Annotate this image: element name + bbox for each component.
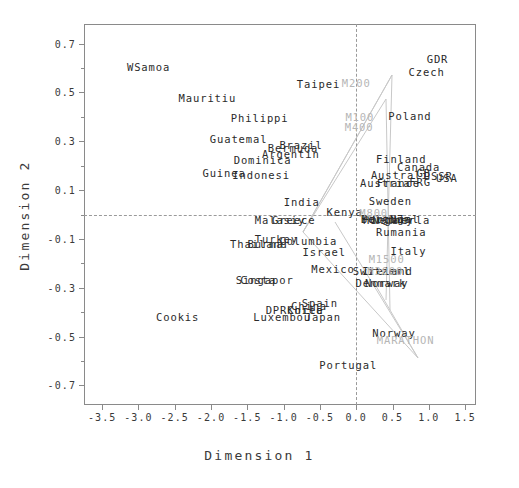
y-minor-tick-mark <box>81 312 84 313</box>
point-label: USA <box>436 172 458 184</box>
point-label: Luxembou <box>253 311 311 323</box>
x-tick-mark <box>175 405 176 410</box>
x-tick-mark <box>465 405 466 410</box>
x-tick-mark <box>393 405 394 410</box>
point-label: Japan <box>305 311 341 323</box>
x-tick-label: 0.5 <box>382 412 403 423</box>
y-tick-mark <box>79 92 84 93</box>
x-tick-label: 0.0 <box>346 412 367 423</box>
point-label: FRG <box>409 176 431 188</box>
y-tick-mark <box>79 239 84 240</box>
x-tick-label: 1.5 <box>454 412 475 423</box>
y-tick-mark <box>79 385 84 386</box>
y-tick-label: -0.3 <box>32 282 76 293</box>
x-tick-label: -2.0 <box>197 412 225 423</box>
point-label: Dominica <box>234 154 292 166</box>
point-label: Israel <box>303 246 346 258</box>
y-tick-label: -0.5 <box>32 331 76 342</box>
y-tick-label: -0.1 <box>32 233 76 244</box>
y-minor-tick-mark <box>81 166 84 167</box>
y-tick-mark <box>79 337 84 338</box>
point-label: Kenya <box>327 206 363 218</box>
x-axis-title: Dimension 1 <box>0 448 519 463</box>
point-label: Singapor <box>236 274 294 286</box>
point-label: M3000 <box>367 265 403 277</box>
x-tick-mark <box>284 405 285 410</box>
point-label: Greece <box>272 214 315 226</box>
x-tick-label: -0.5 <box>306 412 334 423</box>
point-label: MARATHON <box>377 334 435 346</box>
y-tick-label: 0.3 <box>32 136 76 147</box>
y-minor-tick-mark <box>81 68 84 69</box>
x-tick-label: -2.5 <box>160 412 188 423</box>
x-tick-label: -3.0 <box>124 412 152 423</box>
x-tick-label: 1.0 <box>418 412 439 423</box>
y-minor-tick-mark <box>81 117 84 118</box>
x-tick-label: -1.5 <box>233 412 261 423</box>
y-axis-title: Dimension 2 <box>17 126 32 306</box>
point-label: Portugal <box>319 359 377 371</box>
y-tick-label: -0.7 <box>32 380 76 391</box>
y-minor-tick-mark <box>81 263 84 264</box>
point-label: Philippi <box>231 112 289 124</box>
y-tick-mark <box>79 141 84 142</box>
point-label: India <box>284 196 320 208</box>
y-minor-tick-mark <box>81 361 84 362</box>
y-tick-label: 0.1 <box>32 185 76 196</box>
point-label: Rumania <box>376 226 427 238</box>
y-tick-mark <box>79 190 84 191</box>
x-tick-mark <box>247 405 248 410</box>
point-label: Mexico <box>311 263 354 275</box>
x-tick-label: -1.0 <box>269 412 297 423</box>
x-tick-mark <box>320 405 321 410</box>
point-label: M1500 <box>369 253 405 265</box>
point-label: Burma <box>247 238 283 250</box>
point-label: WSamoa <box>127 61 170 73</box>
point-label: Sweden <box>369 195 412 207</box>
point-label: M200 <box>342 77 371 89</box>
x-tick-mark <box>138 405 139 410</box>
point-label: Indonesi <box>232 169 290 181</box>
x-tick-mark <box>356 405 357 410</box>
point-label: Guatemal <box>210 133 268 145</box>
point-label: Mauritiu <box>179 92 237 104</box>
y-tick-mark <box>79 44 84 45</box>
point-label: GDR <box>427 53 449 65</box>
x-tick-mark <box>102 405 103 410</box>
x-tick-mark <box>211 405 212 410</box>
y-tick-label: 0.7 <box>32 38 76 49</box>
point-label: Taipei <box>297 78 340 90</box>
point-label: Cookis <box>156 311 199 323</box>
point-label: Poland <box>388 110 431 122</box>
x-tick-mark <box>429 405 430 410</box>
point-label: M800 <box>359 207 388 219</box>
y-tick-mark <box>79 288 84 289</box>
scatter-plot-figure: Dimension 1 Dimension 2 -3.5-3.0-2.5-2.0… <box>0 0 519 488</box>
x-tick-label: -3.5 <box>88 412 116 423</box>
point-label: Czech <box>409 66 445 78</box>
point-label: Norway <box>365 277 408 289</box>
y-tick-label: 0.5 <box>32 87 76 98</box>
point-label: M400 <box>345 121 374 133</box>
